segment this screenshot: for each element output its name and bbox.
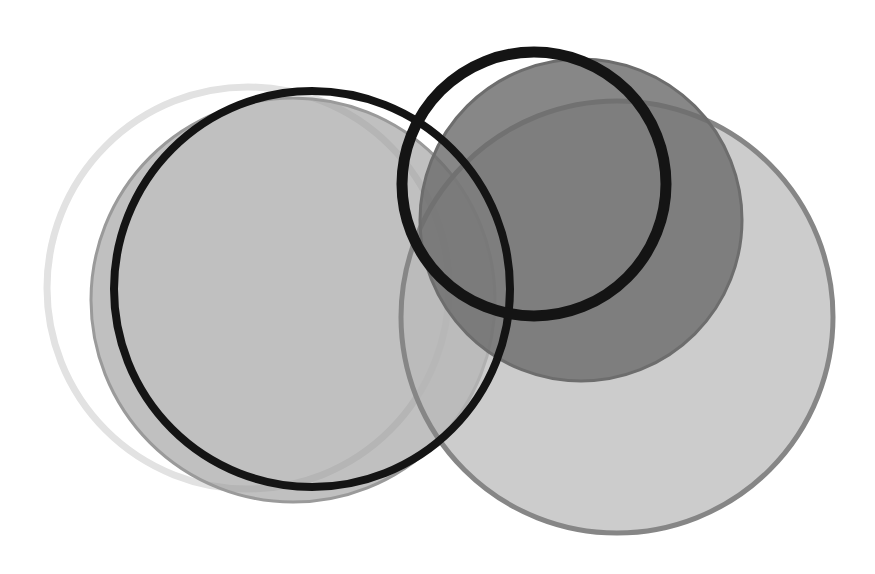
figure-canvas — [0, 0, 875, 574]
overlapping-circles-diagram — [0, 0, 875, 574]
dark-grey-disc-upper-right — [420, 59, 742, 381]
